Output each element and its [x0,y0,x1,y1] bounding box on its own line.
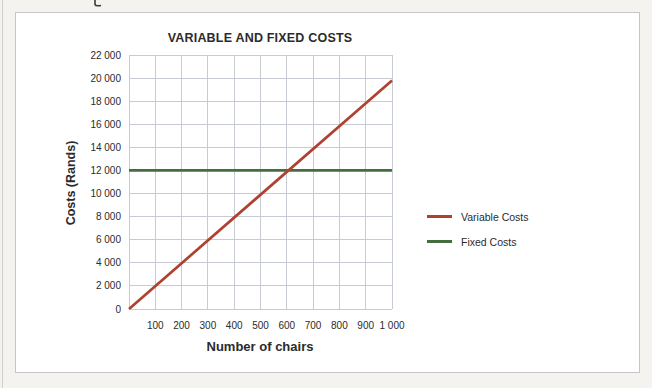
x-tick-label: 400 [226,320,243,331]
plot-area: 02 0004 0006 0008 00010 00012 00014 0001… [0,0,652,388]
y-tick-label: 18 000 [90,96,121,107]
page-background: VARIABLE AND FIXED COSTS Costs (Rands) 0… [0,0,652,388]
x-tick-label: 200 [173,320,190,331]
x-axis-title: Number of chairs [160,339,360,354]
x-tick-label: 700 [305,320,322,331]
x-tick-label: 900 [357,320,374,331]
x-tick-label: 500 [252,320,269,331]
legend-label-variable-costs: Variable Costs [461,211,529,223]
fixed-costs-swatch [427,240,452,243]
y-tick-label: 2 000 [96,280,121,291]
y-tick-label: 10 000 [90,188,121,199]
y-tick-label: 4 000 [96,257,121,268]
y-tick-label: 0 [115,304,121,315]
y-tick-label: 22 000 [90,50,121,61]
variable-costs-swatch [427,215,452,218]
x-tick-label: 600 [278,320,295,331]
x-tick-label: 800 [331,320,348,331]
x-tick-label: 1 000 [379,320,404,331]
legend-item-fixed-costs: Fixed Costs [427,236,529,247]
y-tick-label: 6 000 [96,234,121,245]
x-tick-label: 300 [200,320,217,331]
y-tick-label: 8 000 [96,211,121,222]
legend-label-fixed-costs: Fixed Costs [461,236,516,248]
legend-item-variable-costs: Variable Costs [427,211,529,222]
y-tick-label: 14 000 [90,142,121,153]
x-tick-label: 100 [147,320,164,331]
y-tick-label: 20 000 [90,73,121,84]
y-tick-label: 12 000 [90,165,121,176]
legend: Variable Costs Fixed Costs [427,211,529,247]
y-tick-label: 16 000 [90,119,121,130]
